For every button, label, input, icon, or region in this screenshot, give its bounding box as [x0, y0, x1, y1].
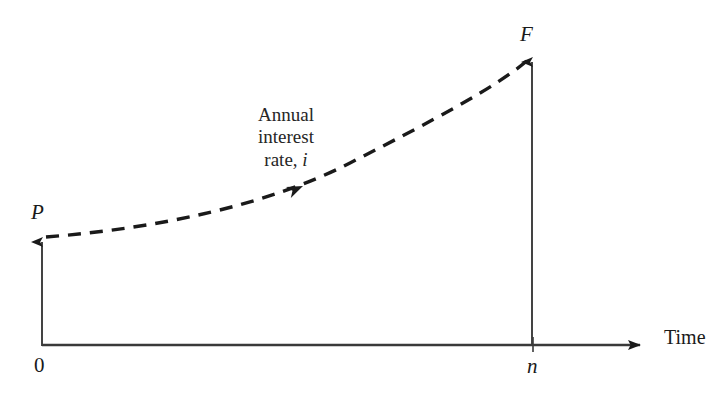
time-axis-label: Time	[664, 327, 706, 347]
period-end-label: n	[527, 356, 538, 377]
origin-label: 0	[34, 355, 45, 376]
cash-flow-diagram: P F 0 n Time Annual interest rate, i	[0, 0, 723, 399]
annotation-rate-symbol: i	[302, 149, 307, 170]
annotation-line-1: Annual	[226, 104, 346, 126]
diagram-canvas	[0, 0, 723, 399]
interest-rate-annotation: Annual interest rate, i	[226, 104, 346, 171]
annotation-rate-text: rate,	[264, 149, 297, 170]
annotation-line-2: interest	[226, 126, 346, 148]
annotation-line-3: rate, i	[226, 149, 346, 171]
future-value-label: F	[520, 24, 533, 45]
present-value-label: P	[31, 202, 44, 223]
